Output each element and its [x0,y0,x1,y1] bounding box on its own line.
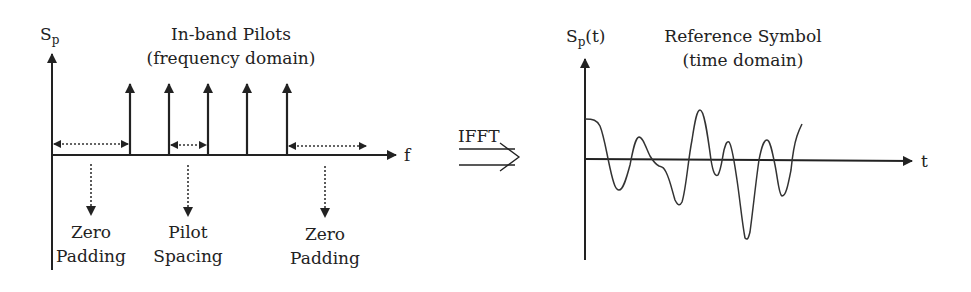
time-title-line1: Reference Symbol [664,26,821,46]
x-axis-label-t: t [921,151,928,171]
pilot-spacing-line1: Pilot [168,222,208,242]
t-axis [585,159,912,161]
freq-title-line2: (frequency domain) [147,48,316,68]
pilot-arrows [130,84,287,155]
zero-padding-right-line2: Padding [290,248,360,268]
zero-padding-left-line2: Padding [56,246,126,266]
frequency-domain-panel: Sp In-band Pilots (frequency domain) f Z… [40,24,412,270]
ofdm-pilot-diagram: Sp In-band Pilots (frequency domain) f Z… [0,0,971,292]
time-domain-panel: Sp(t) Reference Symbol (time domain) t [566,26,928,260]
reference-symbol-waveform [585,110,802,239]
y-axis-label-sp: Sp [40,24,60,47]
time-title-line2: (time domain) [683,50,804,70]
zero-padding-right-line1: Zero [305,224,345,244]
freq-title-line1: In-band Pilots [171,24,291,44]
ifft-arrow-head [500,143,519,171]
pilot-spacing-line2: Spacing [153,246,223,266]
ifft-label: IFFT [458,126,500,146]
y-axis-label-sp-t: Sp(t) [566,26,605,49]
ifft-transform: IFFT [458,126,519,171]
x-axis-label-f: f [404,145,412,165]
zero-padding-left-line1: Zero [71,222,111,242]
